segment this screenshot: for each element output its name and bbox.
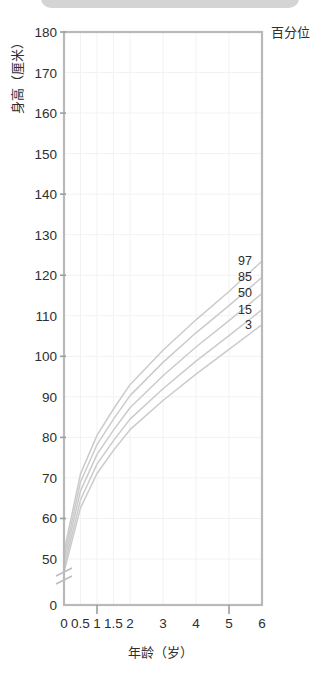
x-tick-label-0: 0 — [60, 616, 68, 631]
y-tick-label-120: 120 — [34, 268, 57, 283]
y-tick-label-130: 130 — [34, 228, 57, 243]
x-tick-label-2: 2 — [126, 616, 134, 631]
y-tick-label-80: 80 — [42, 430, 57, 445]
legend-title: 百分位 — [271, 25, 310, 40]
x-tick-label-5: 5 — [225, 616, 233, 631]
y-tick-label-160: 160 — [34, 106, 57, 121]
y-tick-label-170: 170 — [34, 66, 57, 81]
y-tick-label-100: 100 — [34, 349, 57, 364]
y-axis-ticks: 05060708090100110120130140150160170180 — [34, 25, 66, 613]
y-axis-title: 身高（厘米） — [10, 36, 25, 114]
series-label-85: 85 — [238, 270, 252, 284]
y-tick-label-0: 0 — [49, 598, 57, 613]
series-label-15: 15 — [238, 303, 252, 317]
series-label-50: 50 — [238, 286, 252, 300]
y-tick-label-180: 180 — [34, 25, 57, 40]
y-tick-label-150: 150 — [34, 147, 57, 162]
height-for-age-chart-svg: 05060708090100110120130140150160170180 0… — [0, 0, 323, 674]
x-tick-label-1: 1 — [93, 616, 101, 631]
chart-container: 05060708090100110120130140150160170180 0… — [0, 0, 323, 674]
series-labels: 978550153 — [238, 254, 252, 332]
x-tick-label-4: 4 — [192, 616, 200, 631]
x-tick-label-1.5: 1.5 — [104, 616, 123, 631]
x-axis-title: 年龄（岁） — [128, 645, 193, 660]
x-tick-label-6: 6 — [258, 616, 266, 631]
y-tick-label-60: 60 — [42, 511, 57, 526]
series-label-3: 3 — [245, 318, 252, 332]
x-tick-label-0.5: 0.5 — [71, 616, 90, 631]
y-tick-label-50: 50 — [42, 552, 57, 567]
x-tick-label-3: 3 — [159, 616, 167, 631]
y-tick-label-140: 140 — [34, 187, 57, 202]
y-tick-label-70: 70 — [42, 471, 57, 486]
y-tick-label-90: 90 — [42, 390, 57, 405]
y-tick-label-110: 110 — [35, 309, 57, 324]
series-label-97: 97 — [238, 254, 252, 268]
x-axis-ticks: 00.511.523456 — [60, 605, 266, 631]
growth-chart-page: 05060708090100110120130140150160170180 0… — [0, 0, 323, 674]
